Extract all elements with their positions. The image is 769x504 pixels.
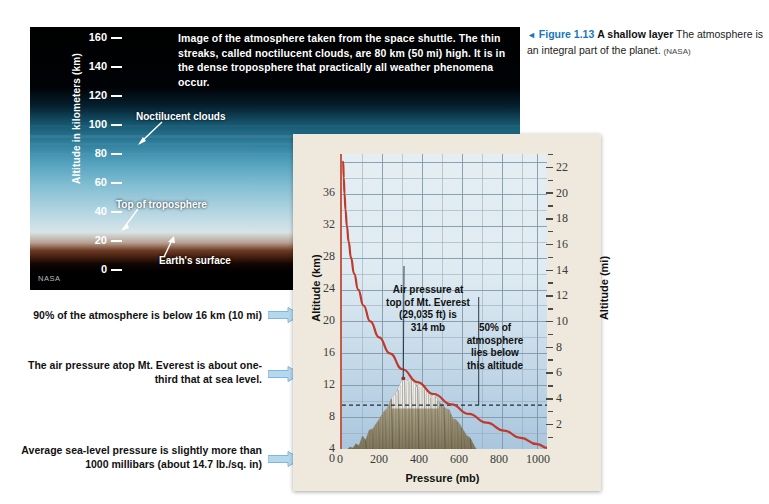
y2-axis-tick-label: 16 <box>556 237 590 252</box>
figure-root: Image of the atmosphere taken from the s… <box>0 0 769 504</box>
y-axis-tick-label: 36 <box>295 185 335 200</box>
y2-axis-minor-tick <box>548 411 553 413</box>
photo-axis-tick: 80 <box>60 147 122 159</box>
annotation-line: this altitude <box>459 360 531 373</box>
photo-axis-tick: 120 <box>60 89 122 101</box>
photo-axis-tick: 140 <box>60 60 122 72</box>
y2-axis-minor-tick <box>548 437 553 439</box>
photo-credit: NASA <box>38 274 60 283</box>
photo-axis-tick-label: 100 <box>89 118 107 130</box>
half-atmosphere-annotation: 50% of atmosphere lies below this altitu… <box>459 322 531 372</box>
tick-dash-icon <box>111 124 122 126</box>
annotation-line: (29,035 ft) is <box>376 309 480 322</box>
y2-axis-tick-label: 18 <box>556 211 590 226</box>
photo-description-text: Image of the atmosphere taken from the s… <box>178 31 508 89</box>
photo-axis-tick-label: 80 <box>95 147 107 159</box>
figure-title: A shallow layer <box>597 28 673 40</box>
y2-axis-tick <box>546 167 553 169</box>
tick-dash-icon <box>111 153 122 155</box>
y2-axis-tick <box>546 192 553 194</box>
tick-dash-icon <box>111 240 122 242</box>
annotation-line: top of Mt. Everest <box>376 297 480 310</box>
y-axis-tick-label: 32 <box>295 217 335 232</box>
annotation-line: Air pressure at <box>376 284 480 297</box>
photo-axis-tick: 160 <box>60 31 122 43</box>
photo-axis-tick: 0 <box>60 263 122 275</box>
photo-axis-tick: 40 <box>60 205 122 217</box>
callout-everest-pressure: The air pressure atop Mt. Everest is abo… <box>10 358 262 386</box>
y2-axis-tick <box>546 321 553 323</box>
y2-axis-tick <box>546 347 553 349</box>
y2-axis-tick-label: 22 <box>556 160 590 175</box>
y2-axis-minor-tick <box>548 231 553 233</box>
photo-axis-tick-label: 20 <box>95 234 107 246</box>
photo-axis-tick-label: 60 <box>95 176 107 188</box>
y2-axis-tick <box>546 295 553 297</box>
photo-axis-tick-label: 40 <box>95 205 107 217</box>
y2-axis-minor-tick <box>548 154 553 156</box>
annotation-line: 50% of <box>459 322 531 335</box>
tick-dash-icon <box>111 37 122 39</box>
y-axis-tick-label: 8 <box>295 409 335 424</box>
y2-axis-minor-tick <box>548 359 553 361</box>
y2-axis-tick <box>546 372 553 374</box>
y-axis-tick-label: 12 <box>295 377 335 392</box>
figure-caption: ◄ Figure 1.13 A shallow layer The atmosp… <box>527 27 763 59</box>
y2-axis-tick <box>546 424 553 426</box>
y2-axis-tick-label: 2 <box>556 417 590 432</box>
y2-axis-minor-tick <box>548 385 553 387</box>
y2-axis-tick <box>546 218 553 220</box>
x-axis-tick-label: 1000 <box>515 452 561 467</box>
y2-axis-minor-tick <box>548 282 553 284</box>
y2-axis-minor-tick <box>548 180 553 182</box>
photo-axis-tick: 20 <box>60 234 122 246</box>
photo-axis-tick: 60 <box>60 176 122 188</box>
tropopause-pointer-icon <box>116 207 146 235</box>
y2-axis-title: Altitude (mi) <box>598 233 610 343</box>
y2-axis-tick-label: 4 <box>556 391 590 406</box>
photo-axis-tick-label: 0 <box>101 263 107 275</box>
y2-axis-minor-tick <box>548 257 553 259</box>
y2-axis-tick-label: 20 <box>556 186 590 201</box>
tick-dash-icon <box>111 182 122 184</box>
y2-axis-tick-label: 10 <box>556 314 590 329</box>
noctilucent-pointer-icon <box>130 119 170 147</box>
callout-90-percent: 90% of the atmosphere is below 16 km (10… <box>10 308 262 322</box>
y2-axis-tick <box>546 398 553 400</box>
photo-axis-tick: 100 <box>60 118 122 130</box>
annotation-line: lies below <box>459 347 531 360</box>
photo-axis-tick-label: 120 <box>89 89 107 101</box>
figure-number: Figure 1.13 <box>539 28 594 40</box>
y2-axis-tick <box>546 270 553 272</box>
photo-axis-tick-label: 140 <box>89 60 107 72</box>
y2-axis-tick-label: 12 <box>556 288 590 303</box>
mount-everest-silhouette <box>348 377 477 449</box>
earths-surface-pointer-icon <box>156 235 184 261</box>
caption-triangle-icon: ◄ <box>527 30 536 40</box>
y2-axis-tick-label: 14 <box>556 263 590 278</box>
pressure-altitude-chart-panel: 4 8 12 16 20 24 28 32 36 0 2 4 6 8 10 12… <box>293 134 601 491</box>
x-axis-title: Pressure (mb) <box>340 472 545 484</box>
y2-axis-minor-tick <box>548 334 553 336</box>
y2-axis-minor-tick <box>548 205 553 207</box>
tick-dash-icon <box>111 95 122 97</box>
y2-axis-minor-tick <box>548 308 553 310</box>
chart-inner: 4 8 12 16 20 24 28 32 36 0 2 4 6 8 10 12… <box>293 134 601 491</box>
y-axis-tick-label: 16 <box>295 345 335 360</box>
photo-axis-tick-label: 160 <box>89 31 107 43</box>
y-axis-title: Altitude (km) <box>310 233 322 343</box>
y2-axis-tick-label: 6 <box>556 365 590 380</box>
y2-axis-tick-label: 8 <box>556 340 590 355</box>
tick-dash-icon <box>111 66 122 68</box>
callout-sea-level-pressure: Average sea-level pressure is slightly m… <box>6 443 262 471</box>
y2-axis-tick <box>546 244 553 246</box>
caption-source: (NASA) <box>664 47 691 56</box>
tick-dash-icon <box>111 269 122 271</box>
annotation-line: atmosphere <box>459 335 531 348</box>
